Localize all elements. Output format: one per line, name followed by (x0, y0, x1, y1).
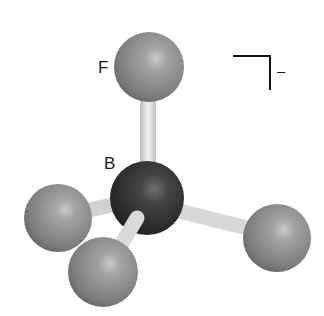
label-boron: B (104, 154, 115, 173)
atom-f-top (114, 32, 184, 102)
bond-right (175, 210, 255, 230)
atom-f-right (243, 204, 311, 272)
charge-sign: – (277, 62, 286, 79)
label-fluorine: F (98, 58, 108, 77)
ion-bracket (233, 56, 270, 90)
atom-f-bottom (68, 237, 138, 307)
atom-f-left (24, 184, 92, 252)
molecule-diagram: F B – (0, 0, 324, 316)
atom-b-center (110, 161, 184, 235)
